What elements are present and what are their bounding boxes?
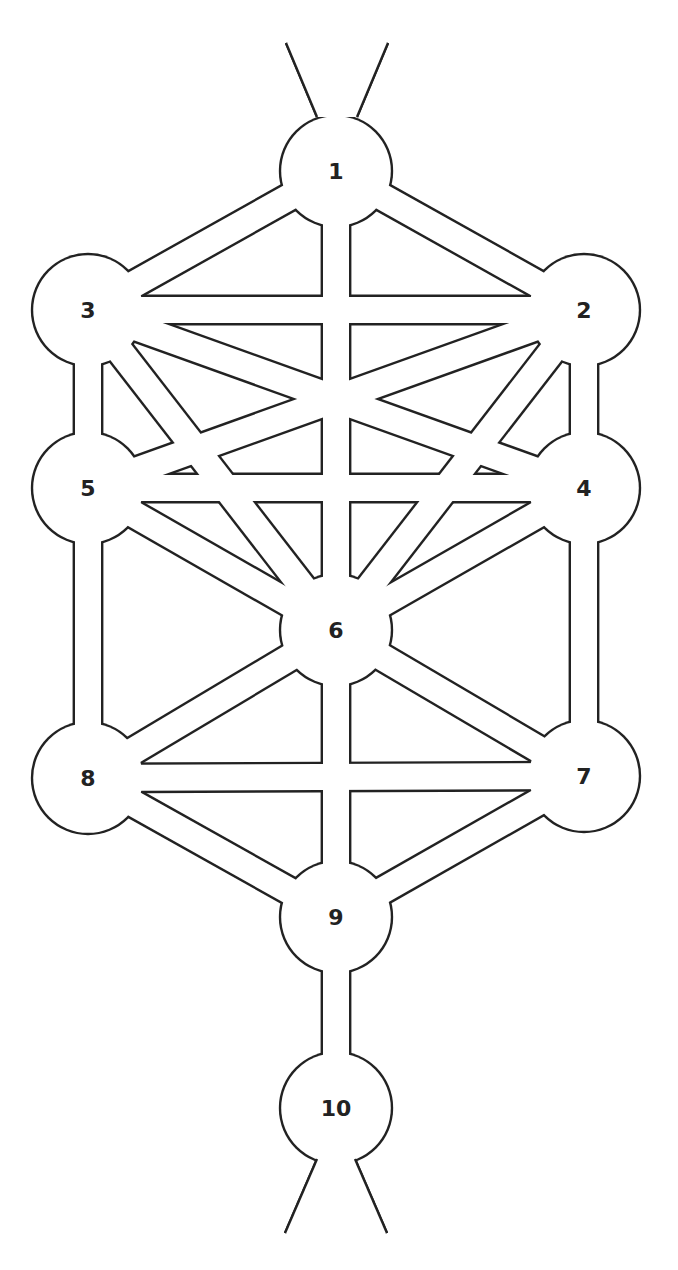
sephirah-label-5: 5: [80, 476, 95, 501]
path-7-8: [88, 776, 584, 778]
sephirah-label-3: 3: [80, 298, 95, 323]
sephirah-label-10: 10: [321, 1096, 352, 1121]
sephirah-label-2: 2: [576, 298, 591, 323]
sephirah-label-8: 8: [80, 766, 95, 791]
sephirah-label-7: 7: [576, 764, 591, 789]
sephirah-label-1: 1: [328, 159, 343, 184]
tree-of-life-diagram: 12345678910: [0, 0, 678, 1270]
sephirah-label-4: 4: [576, 476, 591, 501]
sephirah-label-9: 9: [328, 905, 343, 930]
sephirah-label-6: 6: [328, 618, 343, 643]
